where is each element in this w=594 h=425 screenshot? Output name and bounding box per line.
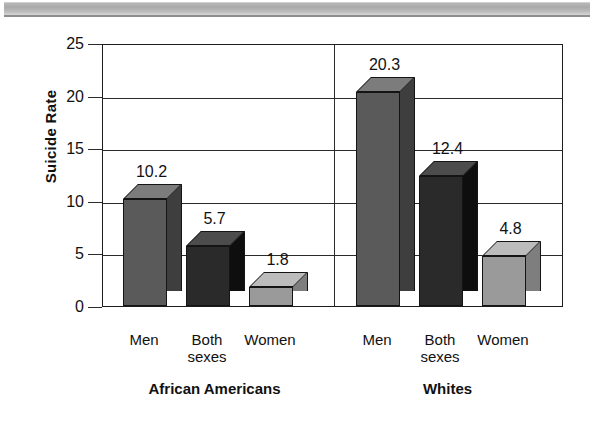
group-label-african-americans: African Americans bbox=[105, 380, 325, 397]
y-tick-label-15: 15 bbox=[44, 141, 84, 157]
y-tick-label-25: 25 bbox=[44, 36, 84, 52]
bar-african-americans-women[interactable] bbox=[249, 287, 293, 306]
bar-whites-both-sexes[interactable] bbox=[419, 176, 463, 306]
bar-value-label: 1.8 bbox=[242, 251, 313, 269]
bar-african-americans-men[interactable] bbox=[123, 199, 167, 306]
y-tick-15 bbox=[88, 149, 102, 150]
y-tick-5 bbox=[88, 254, 102, 255]
bar-front-face bbox=[419, 176, 463, 306]
bar-value-label: 10.2 bbox=[116, 163, 187, 181]
bar-whites-men[interactable] bbox=[356, 92, 400, 306]
y-tick-0 bbox=[88, 307, 102, 308]
bar-front-face bbox=[186, 246, 230, 306]
y-tick-20 bbox=[88, 97, 102, 98]
bar-african-americans-both-sexes[interactable] bbox=[186, 246, 230, 306]
x-category-label-line: sexes bbox=[169, 348, 245, 365]
x-category-label-women: Women bbox=[232, 331, 308, 348]
bar-value-label: 4.8 bbox=[475, 220, 546, 238]
bar-value-label: 5.7 bbox=[179, 210, 250, 228]
group-label-whites: Whites bbox=[338, 380, 558, 397]
x-category-label-line: Women bbox=[232, 331, 308, 348]
gridline-15 bbox=[103, 150, 562, 151]
bar-value-label: 20.3 bbox=[349, 56, 420, 74]
group-divider-line bbox=[334, 45, 335, 306]
y-tick-25 bbox=[88, 44, 102, 45]
bar-side-face bbox=[167, 184, 182, 291]
y-tick-label-5: 5 bbox=[44, 246, 84, 262]
x-category-label-line: sexes bbox=[402, 348, 478, 365]
y-tick-label-20: 20 bbox=[44, 89, 84, 105]
x-category-label-women: Women bbox=[465, 331, 541, 348]
y-axis-title: Suicide Rate bbox=[42, 57, 59, 217]
x-category-label-line: Women bbox=[465, 331, 541, 348]
y-tick-label-0: 0 bbox=[44, 299, 84, 315]
y-tick-label-10: 10 bbox=[44, 194, 84, 210]
bar-front-face bbox=[482, 256, 526, 306]
bar-value-label: 12.4 bbox=[412, 140, 483, 158]
bar-whites-women[interactable] bbox=[482, 256, 526, 306]
gridline-20 bbox=[103, 98, 562, 99]
bar-front-face bbox=[356, 92, 400, 306]
bar-front-face bbox=[249, 287, 293, 306]
bar-front-face bbox=[123, 199, 167, 306]
y-tick-10 bbox=[88, 202, 102, 203]
chart-figure: Suicide Rate 0510152025 MenBothsexesWome… bbox=[0, 0, 594, 425]
bar-side-face bbox=[400, 77, 415, 291]
